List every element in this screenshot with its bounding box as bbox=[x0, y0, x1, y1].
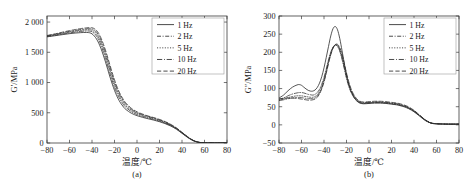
panel-b-ylabel: G″/MPa bbox=[244, 65, 253, 93]
legend-label-3: 10 Hz bbox=[410, 55, 429, 64]
legend-label-1: 2 Hz bbox=[410, 32, 425, 41]
panel-a-xlabel: 温度/℃ bbox=[122, 156, 152, 167]
x-tick-label-3: −20 bbox=[108, 146, 121, 155]
x-tick-label-6: 40 bbox=[178, 146, 186, 155]
x-tick-label-5: 20 bbox=[155, 146, 163, 155]
y-tick-label-7: 300 bbox=[263, 12, 275, 21]
x-tick-label-7: 60 bbox=[432, 146, 440, 155]
y-tick-label-3: 100 bbox=[263, 84, 275, 93]
x-tick-label-5: 20 bbox=[387, 146, 395, 155]
x-tick-label-1: −60 bbox=[295, 146, 308, 155]
panel-b-plot-area: −80−60−40−20020406080−500501001502002503… bbox=[244, 12, 463, 179]
legend-label-2: 5 Hz bbox=[178, 44, 193, 53]
x-tick-label-6: 40 bbox=[410, 146, 418, 155]
y-tick-label-4: 2 000 bbox=[25, 18, 43, 27]
legend-label-0: 1 Hz bbox=[410, 21, 425, 30]
legend-label-3: 10 Hz bbox=[178, 55, 197, 64]
panel-a-plot-area: −80−60−40−2002040608005001 0001 5002 000… bbox=[10, 16, 231, 179]
x-tick-label-1: −60 bbox=[63, 146, 76, 155]
y-tick-label-3: 1 500 bbox=[25, 48, 43, 57]
y-tick-label-6: 250 bbox=[263, 30, 275, 39]
figure-root: −80−60−40−2002040608005001 0001 5002 000… bbox=[0, 0, 471, 191]
chart-panel-a: −80−60−40−2002040608005001 0001 5002 000… bbox=[0, 0, 236, 191]
y-tick-label-5: 200 bbox=[263, 48, 275, 57]
legend-label-0: 1 Hz bbox=[178, 21, 193, 30]
panel-a-ylabel: G′/MPa bbox=[10, 66, 19, 92]
panel-b-caption: (b) bbox=[364, 170, 374, 179]
panel-a-svg: −80−60−40−2002040608005001 0001 5002 000… bbox=[0, 0, 236, 191]
panel-b-xlabel: 温度/℃ bbox=[354, 156, 384, 167]
chart-panel-b: −80−60−40−20020406080−500501001502002503… bbox=[235, 0, 471, 191]
legend-label-1: 2 Hz bbox=[178, 32, 193, 41]
y-tick-label-0: −50 bbox=[263, 139, 276, 148]
y-tick-label-0: 0 bbox=[39, 139, 43, 148]
panel-a-caption: (a) bbox=[132, 170, 142, 179]
x-tick-label-4: 0 bbox=[135, 146, 139, 155]
x-tick-label-3: −20 bbox=[340, 146, 353, 155]
y-tick-label-1: 0 bbox=[271, 121, 275, 130]
x-tick-label-2: −40 bbox=[86, 146, 99, 155]
legend-label-4: 20 Hz bbox=[410, 67, 429, 76]
x-tick-label-7: 60 bbox=[200, 146, 208, 155]
panel-b-svg: −80−60−40−20020406080−500501001502002503… bbox=[235, 0, 471, 191]
y-tick-label-2: 50 bbox=[267, 103, 275, 112]
x-tick-label-4: 0 bbox=[367, 146, 371, 155]
x-tick-label-2: −40 bbox=[318, 146, 331, 155]
y-tick-label-2: 1 000 bbox=[25, 78, 43, 87]
y-tick-label-1: 500 bbox=[31, 109, 43, 118]
x-tick-label-8: 80 bbox=[223, 146, 231, 155]
legend-label-4: 20 Hz bbox=[178, 67, 197, 76]
legend-label-2: 5 Hz bbox=[410, 44, 425, 53]
x-tick-label-8: 80 bbox=[455, 146, 463, 155]
y-tick-label-4: 150 bbox=[263, 66, 275, 75]
